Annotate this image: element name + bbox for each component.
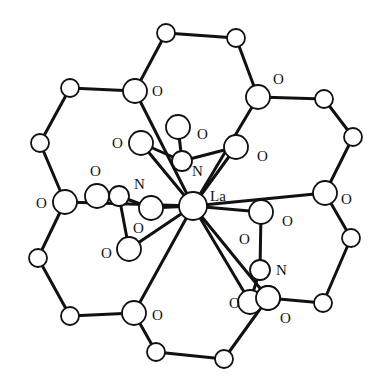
crown-carbon-atom (61, 307, 79, 325)
nitrate-oxygen-atom-label: O (229, 295, 240, 311)
nitrate-nitrogen-atom-label: N (134, 176, 145, 192)
nitrate-oxygen-atom-label: O (112, 135, 123, 151)
crown-carbon-atom (315, 90, 333, 108)
nitrate-oxygen-atom (139, 196, 163, 220)
nitrate-oxygen-atom (249, 200, 273, 224)
la-coordination-bond (65, 202, 193, 206)
nitrate-nitrogen-atom (172, 151, 192, 171)
crown-oxygen-atom (246, 85, 270, 109)
crown-oxygen-atom (313, 181, 337, 205)
lanthanum-crown-ether-nitrate-complex: OOOOOONOOONOOONOOOLa (0, 0, 382, 389)
la-coordination-bond (193, 206, 250, 302)
crown-ring-bond (323, 238, 351, 303)
crown-oxygen-atom-label: O (152, 307, 163, 323)
crown-carbon-atom (344, 128, 362, 146)
nitrate-nitrogen-atom-label: N (276, 262, 287, 278)
crown-oxygen-atom-label: O (273, 71, 284, 87)
crown-carbon-atom (227, 29, 245, 47)
nitrate-oxygen-atom (117, 237, 141, 261)
nitrate-oxygen-atom-label: O (101, 245, 112, 261)
crown-carbon-atom (31, 134, 49, 152)
crown-carbon-atom (147, 343, 165, 361)
lanthanum-atom (179, 192, 207, 220)
nitrate-oxygen-atom-label: O (257, 148, 268, 164)
crown-ring-bond (156, 352, 224, 359)
lanthanum-atom-label: La (210, 188, 226, 204)
molecule-diagram: OOOOOONOOONOOONOOOLa (0, 0, 382, 389)
crown-carbon-atom (61, 79, 79, 97)
nitrate-oxygen-atom (85, 184, 109, 208)
nitrate-oxygen-atom (224, 135, 248, 159)
nitrate-nitrogen-atom (109, 186, 129, 206)
nitrate-nitrogen-atom-label: N (192, 163, 203, 179)
nitrate-oxygen-atom (166, 115, 190, 139)
nitrate-oxygen-atom-label: O (282, 213, 293, 229)
nitrate-nitrogen-atom (250, 260, 270, 280)
crown-carbon-atom (29, 249, 47, 267)
crown-oxygen-atom (123, 79, 147, 103)
nitrate-oxygen-atom (256, 286, 280, 310)
crown-carbon-atom (157, 24, 175, 42)
crown-oxygen-atom-label: O (152, 83, 163, 99)
crown-oxygen-atom-label: O (36, 195, 47, 211)
crown-carbon-atom (314, 294, 332, 312)
crown-ring-bond (38, 258, 70, 316)
atom-layer (29, 24, 362, 368)
nitrate-oxygen-atom-label: O (239, 231, 250, 247)
crown-oxygen-atom-label: O (280, 310, 291, 326)
nitrate-oxygen-atom-label: O (133, 220, 144, 236)
crown-ring-bond (166, 33, 236, 38)
nitrate-oxygen-atom-label: O (197, 126, 208, 142)
crown-carbon-atom (342, 229, 360, 247)
nitrate-oxygen-atom (129, 131, 153, 155)
nitrate-oxygen-atom-label: O (90, 163, 101, 179)
crown-oxygen-atom (53, 190, 77, 214)
crown-oxygen-atom (122, 301, 146, 325)
crown-carbon-atom (215, 350, 233, 368)
crown-oxygen-atom-label: O (341, 191, 352, 207)
